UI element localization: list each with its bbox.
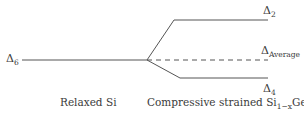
- delta2-subscript: 2: [271, 10, 276, 19]
- delta4-level-line: [147, 60, 268, 78]
- delta2-label: Δ2: [263, 4, 276, 19]
- delta-symbol: Δ: [261, 44, 269, 57]
- delta-symbol: Δ: [6, 52, 14, 65]
- delta2-level-line: [147, 20, 268, 60]
- delta4-label: Δ4: [263, 82, 276, 97]
- delta6-label: Δ6: [6, 52, 19, 67]
- relaxed-si-caption: Relaxed Si: [60, 96, 116, 108]
- caption-ge: Ge: [292, 96, 304, 108]
- delta-symbol: Δ: [263, 4, 271, 17]
- delta-symbol: Δ: [263, 82, 271, 95]
- strained-sige-caption: Compressive strained Si1−xGex: [147, 96, 304, 111]
- delta-average-label: ΔAverage: [261, 44, 300, 59]
- delta6-subscript: 6: [14, 58, 19, 67]
- caption-sub-1-x: 1−x: [277, 102, 292, 111]
- caption-prefix: Compressive strained Si: [147, 96, 277, 108]
- delta-average-subscript: Average: [269, 50, 300, 59]
